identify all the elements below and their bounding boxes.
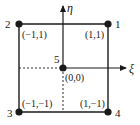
node-2-coord: (−1,1)	[22, 29, 47, 41]
node-1-label: 1	[115, 18, 121, 30]
diagram-canvas: 1 2 3 4 5 (1,1) (−1,1) (−1,−1) (1,−1) (0…	[0, 0, 140, 125]
node-3-dot	[15, 108, 22, 115]
node-2-label: 2	[5, 18, 11, 30]
node-3-coord: (−1,−1)	[22, 98, 52, 110]
quadrilateral-element-diagram: 1 2 3 4 5 (1,1) (−1,1) (−1,−1) (1,−1) (0…	[0, 0, 140, 125]
node-5-coord: (0,0)	[65, 72, 84, 84]
node-1-coord: (1,1)	[85, 29, 104, 41]
node-1-dot	[104, 20, 111, 27]
xi-axis-label: ξ	[129, 62, 135, 76]
node-2-dot	[15, 20, 22, 27]
eta-axis-label: η	[67, 1, 73, 15]
node-4-dot	[104, 108, 111, 115]
node-4-label: 4	[115, 107, 121, 119]
node-3-label: 3	[7, 107, 13, 119]
node-4-coord: (1,−1)	[80, 98, 105, 110]
node-5-label: 5	[54, 53, 60, 65]
node-5-dot	[59, 64, 66, 71]
